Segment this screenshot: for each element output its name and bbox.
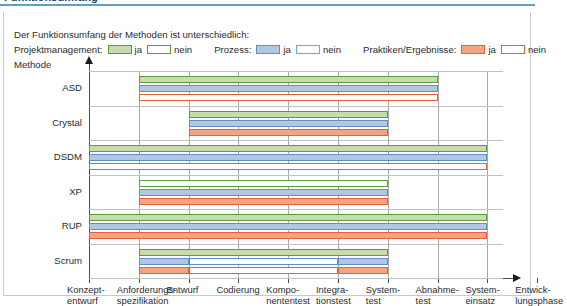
bar-dsdm-blue [89,154,487,161]
x-axis-label-line1: Integra- [316,284,368,295]
x-axis-label-line2: tionstest [316,295,368,306]
x-axis-label-3: Codierung [216,284,268,295]
bar-asd-orange [139,94,438,101]
x-axis-label-4: Kompo-nententest [266,284,318,306]
y-axis-label-scrum: Scrum [4,255,82,266]
row-separator [89,244,503,245]
x-axis-label-1: Anforderungs-spezifikation [117,284,169,306]
x-axis-label-9: Entwick-lungsphase [515,284,567,306]
bar-xp-orange [139,198,388,205]
chart-panel: Der Funktionsumfang der Methoden ist unt… [3,12,531,296]
legend-group-2: Praktiken/Ergebnisse:janein [363,43,546,55]
x-axis-label-line2: nententest [266,295,318,306]
legend-yes-label: ja [488,44,495,55]
bar-scrum-blue-seg2 [338,258,388,265]
x-axis-label-8: System-einsatz [465,284,517,306]
x-axis-label-line1: Abnahme- [416,284,468,295]
bar-xp-blue [139,189,388,196]
x-axis-label-line2: spezifikation [117,295,169,306]
bar-scrum-orange-seg0 [139,267,189,274]
page-title-bar: Funktionsumfang [0,0,535,11]
x-axis-label-6: System-test [366,284,418,306]
bar-asd-green [139,76,438,83]
x-axis-label-line2: lungsphase [515,295,567,306]
y-axis-label-asd: ASD [4,82,82,93]
legend-group-1: Prozess:janein [214,43,341,55]
y-axis-label-xp: XP [4,186,82,197]
chart-caption: Der Funktionsumfang der Methoden ist unt… [14,29,249,40]
bar-dsdm-green [89,145,487,152]
x-axis-label-line1: System- [465,284,517,295]
legend-group-label: Projektmanagement: [14,44,103,55]
row-separator [89,175,503,176]
x-axis-label-line2: test [416,295,468,306]
y-axis-arrow-icon [85,56,93,64]
legend-yes-label: ja [135,44,142,55]
legend-no-label: nein [528,44,546,55]
bar-scrum-green [139,249,388,256]
legend-swatch-yes-icon [461,45,485,54]
bar-scrum-blue-seg1 [189,258,338,265]
legend-no-label: nein [323,44,341,55]
bar-crystal-orange [189,129,388,136]
legend-swatch-yes-icon [108,45,132,54]
legend-group-label: Praktiken/Ergebnisse: [363,44,456,55]
x-axis-label-line2: entwurf [67,295,119,306]
legend-group-label: Prozess: [214,44,251,55]
bar-rup-orange [89,232,487,239]
x-axis-label-line1: Kompo- [266,284,318,295]
legend-swatch-yes-icon [256,45,280,54]
x-axis-label-7: Abnahme-test [416,284,468,306]
x-axis-label-0: Konzept-entwurf [67,284,119,306]
bar-crystal-blue [189,120,388,127]
bar-scrum-blue-seg0 [139,258,189,265]
y-axis-label-rup: RUP [4,220,82,231]
row-separator [89,106,503,107]
bar-rup-blue [89,223,487,230]
x-axis-label-line1: Konzept- [67,284,119,295]
x-axis-label-5: Integra-tionstest [316,284,368,306]
legend-swatch-no-icon [501,45,525,54]
legend-swatch-no-icon [296,45,320,54]
x-axis-arrow-icon [513,274,521,282]
legend-swatch-no-icon [147,45,171,54]
row-separator [89,71,503,72]
row-separator [89,278,503,279]
row-separator [89,209,503,210]
x-axis-label-line2: test [366,295,418,306]
y-axis-label-dsdm: DSDM [4,151,82,162]
y-axis-label-crystal: Crystal [4,117,82,128]
x-axis-label-line2: einsatz [465,295,517,306]
y-axis-line [89,61,90,279]
x-axis-label-2: Entwurf [167,284,219,295]
bar-asd-blue [139,85,438,92]
legend-group-0: Projektmanagement:janein [14,43,192,55]
bar-scrum-orange-seg1 [189,267,338,274]
row-separator [89,140,503,141]
x-axis-label-line1: Entwurf [167,284,219,295]
bar-xp-green [139,180,388,187]
bar-scrum-orange-seg2 [338,267,388,274]
chart-legend: Projektmanagement:janeinProzess:janeinPr… [14,43,546,55]
x-axis-label-line1: Entwick- [515,284,567,295]
page-title: Funktionsumfang [4,0,98,3]
y-axis-title: Methode [14,59,51,70]
legend-yes-label: ja [283,44,290,55]
bar-rup-green [89,214,487,221]
bar-dsdm-orange [89,163,487,170]
bar-crystal-green [189,111,388,118]
legend-no-label: nein [174,44,192,55]
title-divider [0,4,535,6]
x-axis-label-line1: Anforderungs- [117,284,169,295]
x-axis-tick [537,278,538,283]
x-axis-label-line1: Codierung [216,284,268,295]
x-axis-label-line1: System- [366,284,418,295]
